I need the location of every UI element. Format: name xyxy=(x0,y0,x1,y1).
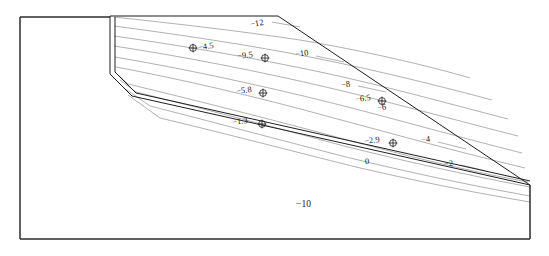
contour-line-7 xyxy=(117,74,528,182)
contour-leader-8 xyxy=(358,86,386,92)
diagram-canvas xyxy=(0,0,549,256)
contour-label-minus-2: −2 xyxy=(444,158,454,168)
contour-lines xyxy=(114,17,530,202)
slope-toe-line-outer xyxy=(110,74,530,185)
slope-profile xyxy=(110,16,530,185)
contour-label-minus-6: −6 xyxy=(376,102,386,112)
contour-line-6 xyxy=(116,67,525,168)
crosshair-point-marker-3 xyxy=(259,89,268,98)
contour-line-1 xyxy=(114,17,470,78)
contour-label-minus-12: −12 xyxy=(249,18,264,29)
contour-line-10 xyxy=(128,95,530,202)
contour-line-2 xyxy=(114,26,492,100)
crosshair-point-marker-6 xyxy=(389,139,398,148)
crosshair-point-marker-1 xyxy=(189,44,198,53)
slope-contour-figure: −12 −4.5 −9.5 −10 −8 −5.8 −6.5 −6 −1.3 −… xyxy=(0,0,549,256)
slope-face xyxy=(278,16,530,185)
slope-toe-line-inner xyxy=(115,72,530,181)
contour-label-minus-6-5: −6.5 xyxy=(354,93,371,104)
crosshair-point-marker-2 xyxy=(261,54,270,63)
field-label-minus-10: −10 xyxy=(296,200,311,210)
contour-label-minus-5-8: −5.8 xyxy=(236,85,253,95)
contour-label-minus-1-3: −1.3 xyxy=(232,116,249,126)
contour-label-minus-8: −8 xyxy=(340,79,350,89)
contour-leader-4 xyxy=(438,142,466,149)
contour-label-minus-4: −4 xyxy=(420,134,430,144)
contour-line-3 xyxy=(114,36,508,119)
contour-label-minus-10: −10 xyxy=(294,48,309,58)
contour-label-minus-2-9: −2.9 xyxy=(364,135,381,145)
contour-label-minus-4-5: −4.5 xyxy=(197,41,214,52)
contour-leader-12 xyxy=(272,22,300,27)
contour-label-minus-9-5: −9.5 xyxy=(237,50,254,60)
contour-label-zero: 0 xyxy=(365,157,370,166)
